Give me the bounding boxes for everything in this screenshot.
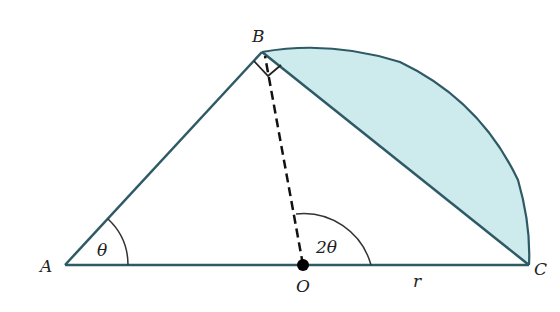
label-theta: θ xyxy=(97,240,107,260)
line-ab xyxy=(65,52,262,265)
label-o: O xyxy=(296,276,310,296)
label-c: C xyxy=(534,259,547,279)
label-a: A xyxy=(38,256,52,276)
label-b: B xyxy=(251,26,265,46)
point-o xyxy=(297,259,309,271)
label-r: r xyxy=(413,271,422,291)
label-2theta: 2θ xyxy=(315,237,337,257)
dashed-ob xyxy=(265,56,303,265)
geometry-diagram: A B O C θ 2θ r xyxy=(0,0,560,312)
angle-arc-a xyxy=(108,219,128,265)
